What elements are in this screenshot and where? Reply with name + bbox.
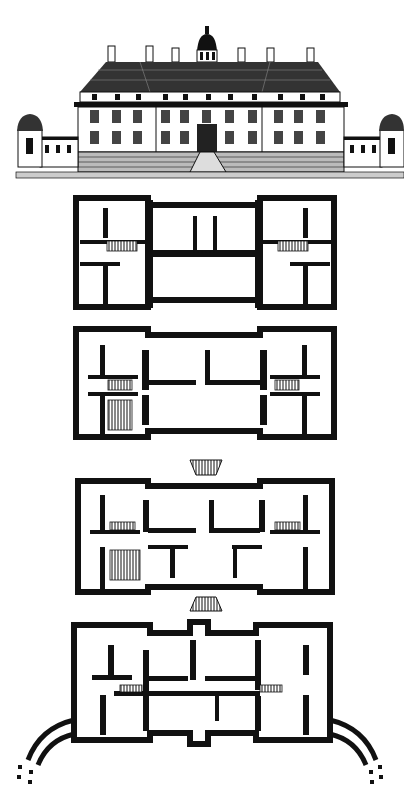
floor-plan-4 [17,622,383,784]
right-wing [344,114,404,167]
main-roof [80,62,340,92]
front-elevation [16,26,404,178]
central-cupola [197,26,217,62]
left-wing [17,114,78,167]
floor-plan-1 [76,198,334,308]
floor-plan-3 [78,460,332,611]
main-entrance [197,124,217,152]
floor-plan-2 [76,329,334,437]
architectural-plate [0,0,404,785]
